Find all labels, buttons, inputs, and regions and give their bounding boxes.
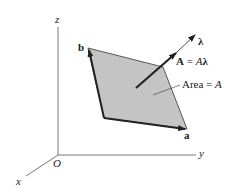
lambda-label: λ — [198, 36, 203, 47]
diagram-graphics — [0, 0, 238, 189]
unit-vector-lambda — [176, 35, 195, 53]
x-axis-label: x — [16, 176, 21, 187]
z-axis-label: z — [55, 14, 59, 25]
y-axis-label: y — [199, 148, 204, 159]
vector-area-diagram: z y x O b a λ A = Aλ Area = A — [0, 0, 238, 189]
area-vector-label: A = Aλ — [176, 56, 208, 67]
vector-a-label: a — [184, 130, 190, 141]
area-label: Area = A — [182, 79, 222, 90]
vector-b-label: b — [78, 42, 84, 53]
origin-label: O — [53, 158, 61, 169]
